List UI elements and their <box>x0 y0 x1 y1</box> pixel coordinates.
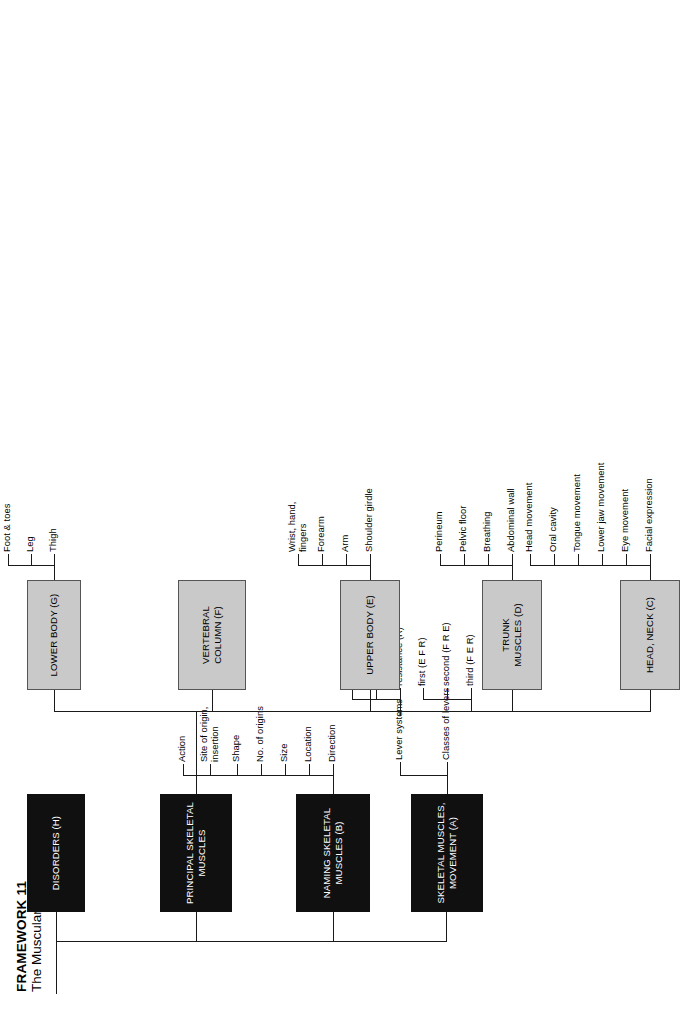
leaf-pelvic-floor: Pelvic floor <box>458 506 469 552</box>
leaf-no-of-origins: No. of origins <box>255 706 266 762</box>
leaf-oral-cavity: Oral cavity <box>548 507 559 552</box>
leaf-abdominal-wall: Abdominal wall <box>506 488 517 552</box>
node-trunk-muscles-d[interactable]: TRUNK MUSCLES (D) <box>482 580 542 690</box>
a-stem <box>447 776 448 794</box>
leaf-second-lever: second (F R E) <box>441 622 452 686</box>
node-e-label: UPPER BODY (E) <box>364 592 377 678</box>
leaf-breathing: Breathing <box>482 511 493 552</box>
node-d-line1: TRUNK <box>500 615 513 655</box>
principal-branch-to-e <box>370 690 371 712</box>
node-a-line2: MOVEMENT (A) <box>447 814 460 892</box>
d-stem <box>512 566 513 580</box>
g-branch-leg <box>31 554 32 566</box>
node-head-neck-c[interactable]: HEAD, NECK (C) <box>620 580 680 690</box>
b-branch-site-of-origin <box>210 764 211 776</box>
c-branch-tongue-movement <box>578 554 579 566</box>
c-branch-lower-jaw-movement <box>602 554 603 566</box>
node-principal-line1: PRINCIPAL SKELETAL <box>184 799 197 907</box>
leaf-lower-jaw-movement: Lower jaw movement <box>596 463 607 552</box>
g-stem <box>54 566 55 580</box>
c-child-spine <box>530 565 650 566</box>
root-spine <box>56 941 446 942</box>
leaf-third-lever: third (F E R) <box>465 634 476 686</box>
e-stem <box>370 566 371 580</box>
leaf-head-movement: Head movement <box>524 483 535 552</box>
e-branch-wrist-hand-fingers <box>298 554 299 566</box>
principal-stem <box>196 712 197 794</box>
node-upper-body-e[interactable]: UPPER BODY (E) <box>340 580 400 690</box>
b-child-spine <box>183 775 333 776</box>
b-branch-action <box>183 764 184 776</box>
root-stem <box>56 942 57 994</box>
d-branch-breathing <box>488 554 489 566</box>
leaf-foot-and-toes: Foot & toes <box>2 504 13 553</box>
b-branch-location <box>309 764 310 776</box>
g-branch-thigh <box>54 554 55 566</box>
node-b-line1: NAMING SKELETAL <box>321 805 334 901</box>
c-stem <box>650 566 651 580</box>
node-lower-body-g[interactable]: LOWER BODY (G) <box>27 580 81 690</box>
node-disorders-h[interactable]: DISORDERS (H) <box>27 794 85 912</box>
b-stem <box>333 776 334 794</box>
leaf-site-of-origin-insertion: Site of origin, insertion <box>199 704 220 762</box>
c-branch-oral-cavity <box>554 554 555 566</box>
branch-first-lever <box>423 688 424 700</box>
e-branch-arm <box>346 554 347 566</box>
leaf-tongue-movement: Tongue movement <box>572 474 583 552</box>
node-skeletal-muscles-movement-a[interactable]: SKELETAL MUSCLES, MOVEMENT (A) <box>411 794 483 912</box>
leaf-shape: Shape <box>231 735 242 762</box>
c-branch-head-movement <box>530 554 531 566</box>
node-b-line2: MUSCLES (B) <box>333 819 346 888</box>
node-a-line1: SKELETAL MUSCLES, <box>435 800 448 907</box>
branch-resistance <box>400 688 401 700</box>
e-branch-shoulder-girdle <box>370 554 371 566</box>
b-branch-no-of-origins <box>261 764 262 776</box>
leaf-shoulder-girdle: Shoulder girdle <box>364 488 375 552</box>
b-branch-size <box>285 764 286 776</box>
d-branch-abdominal-wall <box>512 554 513 566</box>
leaf-first-lever: first (E F R) <box>417 637 428 686</box>
c-branch-eye-movement <box>626 554 627 566</box>
d-branch-perineum <box>440 554 441 566</box>
a-branch-classes-of-levers <box>447 762 448 776</box>
node-naming-skeletal-muscles-b[interactable]: NAMING SKELETAL MUSCLES (B) <box>296 794 370 912</box>
leaf-forearm: Forearm <box>316 516 327 552</box>
d-branch-pelvic-floor <box>464 554 465 566</box>
leaf-location: Location <box>303 726 314 762</box>
branch-third-lever <box>471 688 472 700</box>
e-child-spine <box>298 565 370 566</box>
leaf-action: Action <box>177 736 188 762</box>
branch-second-lever <box>447 688 448 700</box>
node-f-line1: VERTEBRAL <box>200 603 213 667</box>
leaf-leg: Leg <box>25 536 36 552</box>
node-d-line2: MUSCLES (D) <box>512 600 525 669</box>
a-child-spine <box>400 775 447 776</box>
g-branch-foot-toes <box>8 554 9 566</box>
root-branch-to-principal <box>196 912 197 942</box>
e-branch-forearm <box>322 554 323 566</box>
principal-branch-to-d <box>512 690 513 712</box>
lever-systems-stem <box>400 700 401 716</box>
root-branch-to-h <box>56 912 57 942</box>
node-vertebral-column-f[interactable]: VERTEBRAL COLUMN (F) <box>178 580 246 690</box>
leaf-eye-movement: Eye movement <box>620 489 631 552</box>
b-branch-shape <box>237 764 238 776</box>
node-principal-line2: MUSCLES <box>196 826 209 879</box>
a-branch-lever-systems <box>400 762 401 776</box>
node-principal-skeletal-muscles[interactable]: PRINCIPAL SKELETAL MUSCLES <box>160 794 232 912</box>
principal-child-spine <box>54 711 650 712</box>
principal-branch-to-g <box>54 690 55 712</box>
leaf-wrist-hand-fingers: Wrist, hand, fingers <box>287 496 308 552</box>
leaf-arm: Arm <box>340 535 351 552</box>
principal-branch-to-f <box>212 690 213 712</box>
leaf-size: Size <box>279 744 290 762</box>
d-child-spine <box>440 565 512 566</box>
principal-branch-to-c <box>650 690 651 712</box>
leaf-thigh: Thigh <box>48 528 59 552</box>
b-branch-direction <box>333 764 334 776</box>
node-g-label: LOWER BODY (G) <box>48 591 61 680</box>
root-branch-to-b <box>333 912 334 942</box>
leaf-direction: Direction <box>327 725 338 762</box>
